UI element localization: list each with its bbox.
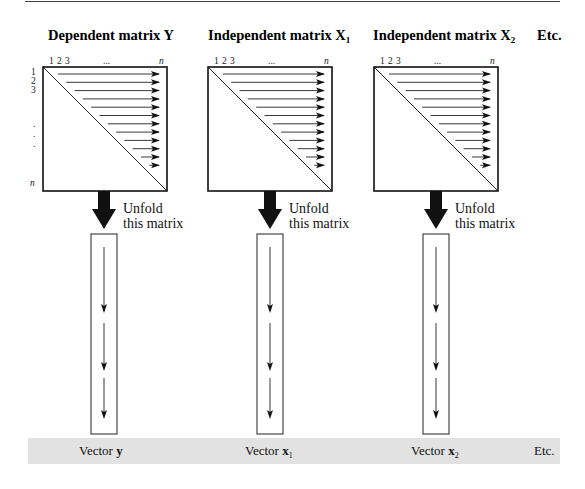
matrix-title-x1: Independent matrix X1 <box>208 27 351 45</box>
column-label-dots: ... <box>434 56 441 66</box>
row-label-n: n <box>30 178 35 188</box>
unfold-matrix-diagram: Dependent matrix Y Independent matrix X1… <box>0 0 585 489</box>
unfold-arrow-x2: Unfoldthis matrix <box>424 191 515 231</box>
down-arrow-icon <box>258 209 282 229</box>
unfold-label-line2: this matrix <box>123 216 183 231</box>
unfold-arrow-x1: Unfoldthis matrix <box>258 191 349 231</box>
column-label-two: 2 <box>57 56 62 66</box>
column-label-dots: ... <box>268 56 275 66</box>
matrix-title-x2: Independent matrix X2 <box>373 27 516 45</box>
vector-label-x2: Vector x2 <box>411 443 459 460</box>
column-label-one: 1 <box>214 56 219 66</box>
row-label-three: 3 <box>31 85 36 95</box>
unfold-arrow-shaft <box>264 191 276 211</box>
column-label-three: 3 <box>65 56 70 66</box>
unfold-arrow-shaft <box>430 191 442 211</box>
column-label-dots: ... <box>103 56 110 66</box>
row-label-dot: . <box>33 129 35 139</box>
unfold-label-line1: Unfold <box>289 201 329 216</box>
matrix-title-y: Dependent matrix Y <box>48 27 174 43</box>
unfold-label-line1: Unfold <box>455 201 495 216</box>
column-label-n: n <box>159 56 164 66</box>
unfold-label-line1: Unfold <box>123 201 163 216</box>
row-label-dot: . <box>33 139 35 149</box>
etc-bottom-label: Etc. <box>534 443 555 458</box>
matrix-x1: 123...n <box>208 56 332 191</box>
down-arrow-icon <box>92 209 116 229</box>
unfold-arrow-y: Unfoldthis matrix <box>92 191 183 231</box>
etc-top-label: Etc. <box>537 27 562 43</box>
vector-x2 <box>423 234 449 434</box>
column-label-two: 2 <box>388 56 393 66</box>
vector-x1 <box>257 234 283 434</box>
column-label-two: 2 <box>222 56 227 66</box>
down-arrow-icon <box>424 209 448 229</box>
unfold-label-line2: this matrix <box>289 216 349 231</box>
column-label-n: n <box>490 56 495 66</box>
unfold-arrow-shaft <box>98 191 110 211</box>
unfold-label-line2: this matrix <box>455 216 515 231</box>
vector-label-y: Vector y <box>79 443 123 458</box>
row-label-dot: . <box>33 119 35 129</box>
column-label-one: 1 <box>49 56 54 66</box>
vector-label-x1: Vector x1 <box>245 443 293 460</box>
matrix-x2: 123...n <box>374 56 498 191</box>
matrix-y: 123...n123...n <box>30 56 167 191</box>
column-label-one: 1 <box>380 56 385 66</box>
column-label-three: 3 <box>396 56 401 66</box>
vector-y <box>91 234 117 434</box>
column-label-n: n <box>324 56 329 66</box>
column-label-three: 3 <box>230 56 235 66</box>
